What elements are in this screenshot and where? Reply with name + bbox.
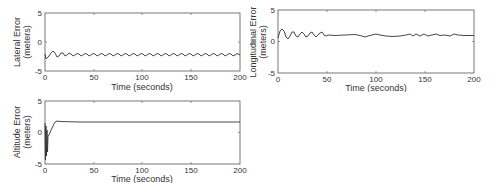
svg-text:Longitudinal Error: Longitudinal Error xyxy=(250,6,258,77)
svg-text:50: 50 xyxy=(323,75,332,84)
svg-text:0: 0 xyxy=(43,73,48,82)
svg-text:(meters): (meters) xyxy=(22,115,32,149)
x-tick-labels: 0 50 100 150 200 xyxy=(43,73,247,82)
svg-text:50: 50 xyxy=(90,73,99,82)
svg-text:200: 200 xyxy=(233,73,247,82)
y-axis-label: Longitudinal Error (meters) xyxy=(250,6,268,77)
plot-area xyxy=(45,13,240,71)
svg-text:200: 200 xyxy=(467,75,481,84)
svg-text:0: 0 xyxy=(43,166,48,175)
svg-text:5: 5 xyxy=(38,97,43,106)
svg-text:-5: -5 xyxy=(35,160,43,169)
svg-text:50: 50 xyxy=(90,166,99,175)
svg-text:5: 5 xyxy=(38,9,43,18)
altitude-error-chart: 5 0 -5 0 50 100 150 200 Time (seconds) A… xyxy=(0,90,250,183)
svg-text:Lateral Error: Lateral Error xyxy=(12,17,22,67)
svg-text:-5: -5 xyxy=(268,69,276,78)
svg-text:0: 0 xyxy=(276,75,281,84)
svg-text:0: 0 xyxy=(38,128,43,137)
y-tick-labels: 5 0 -5 xyxy=(35,97,43,169)
plot-area xyxy=(278,10,474,73)
plot-area xyxy=(45,101,240,164)
svg-text:150: 150 xyxy=(418,75,432,84)
longitudinal-error-chart: 5 0 -5 0 50 100 150 200 Time (seconds) L… xyxy=(250,0,498,92)
svg-text:200: 200 xyxy=(233,166,247,175)
svg-text:(meters): (meters) xyxy=(22,25,32,59)
svg-text:100: 100 xyxy=(135,73,149,82)
svg-text:Altitude Error: Altitude Error xyxy=(12,106,22,159)
svg-text:(meters): (meters) xyxy=(258,25,268,59)
y-axis-label: Altitude Error (meters) xyxy=(12,106,32,159)
svg-text:150: 150 xyxy=(184,73,198,82)
x-axis-label: Time (seconds) xyxy=(111,174,173,183)
lateral-error-chart: 5 0 -5 0 50 100 150 200 Time (seconds) L… xyxy=(0,0,250,92)
svg-text:0: 0 xyxy=(38,38,43,47)
x-axis-label: Time (seconds) xyxy=(345,83,407,92)
svg-text:5: 5 xyxy=(271,6,276,15)
svg-text:150: 150 xyxy=(184,166,198,175)
y-tick-labels: 5 0 -5 xyxy=(268,6,276,78)
y-tick-labels: 5 0 -5 xyxy=(35,9,43,76)
svg-text:0: 0 xyxy=(271,37,276,46)
y-axis-label: Lateral Error (meters) xyxy=(12,17,32,67)
svg-text:-5: -5 xyxy=(35,67,43,76)
